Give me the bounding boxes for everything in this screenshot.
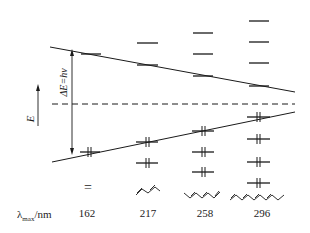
homo-level-paired <box>247 134 270 144</box>
energy-axis-label: E <box>24 116 36 123</box>
homo-level-paired <box>136 158 158 168</box>
transition-label: ΔE=hν <box>58 68 69 96</box>
lambda-value-butadiene: 217 <box>140 207 157 219</box>
homo-level-paired <box>136 137 158 147</box>
homo-level-paired <box>192 147 214 157</box>
transition-double-arrow-icon <box>70 49 74 155</box>
homo-level-paired <box>247 157 270 167</box>
homo-level-paired <box>192 167 214 177</box>
column-hexatriene-levels <box>184 33 220 198</box>
column-butadiene-levels <box>136 43 160 195</box>
lambda-value-ethene: 162 <box>79 207 96 219</box>
ethene-structure-icon: = <box>84 181 92 195</box>
column-ethene-levels <box>80 54 101 157</box>
homo-level-paired <box>247 178 270 188</box>
lambda-value-octatetraene: 296 <box>254 207 271 219</box>
lambda-max-row-label: λmax/nm <box>17 208 52 223</box>
energy-axis-arrow-icon <box>36 84 40 126</box>
lambda-value-hexatriene: 258 <box>197 207 214 219</box>
column-octatetraene-levels <box>230 21 284 200</box>
mo-energy-diagram <box>0 0 310 233</box>
hexatriene-structure-icon <box>184 192 220 198</box>
homo-level-paired <box>247 112 270 122</box>
homo-level-paired <box>192 126 214 136</box>
